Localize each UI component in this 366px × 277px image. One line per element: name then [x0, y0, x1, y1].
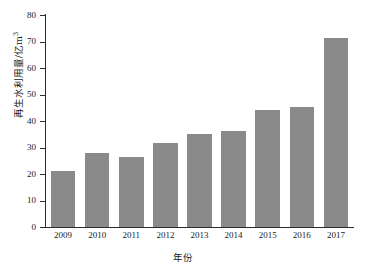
x-axis-tick-label: 2010	[80, 230, 114, 241]
bar	[255, 110, 280, 227]
y-axis-tick-label: 50	[8, 90, 36, 99]
x-axis-title: 年份	[0, 250, 366, 264]
x-axis-line	[45, 227, 354, 228]
bar	[119, 157, 144, 227]
bar	[290, 107, 315, 227]
y-axis-tick-label: 20	[8, 170, 36, 179]
bar-slot	[51, 15, 76, 227]
x-axis-tick-label: 2017	[319, 230, 353, 241]
bar	[153, 143, 178, 227]
y-axis-title-superscript: 3	[12, 32, 20, 36]
bar	[324, 38, 349, 227]
y-axis-tick-label: 30	[8, 143, 36, 152]
x-axis-tick-labels: 200920102011201220132014201520162017	[46, 230, 353, 244]
bar-slot	[119, 15, 144, 227]
bar-slot	[85, 15, 110, 227]
bar	[51, 171, 76, 227]
bar-slot	[153, 15, 178, 227]
x-axis-tick-label: 2011	[114, 230, 148, 241]
bar-slot	[324, 15, 349, 227]
bar-slot	[255, 15, 280, 227]
y-axis-title-text: 再生水利用量/亿m	[13, 36, 24, 118]
y-axis-tick-label: 70	[8, 37, 36, 46]
y-axis-tick-label: 0	[8, 223, 36, 232]
y-axis-tick-label: 40	[8, 117, 36, 126]
x-axis-tick-label: 2012	[148, 230, 182, 241]
x-axis-tick-label: 2013	[182, 230, 216, 241]
x-axis-tick-label: 2015	[251, 230, 285, 241]
bar-slot	[187, 15, 212, 227]
bar	[187, 134, 212, 227]
bar	[85, 153, 110, 227]
bar	[221, 131, 246, 227]
x-axis-tick-label: 2014	[217, 230, 251, 241]
bar-chart: 再生水利用量/亿m3 01020304050607080 20092010201…	[0, 0, 366, 277]
y-axis-tick-label: 80	[8, 11, 36, 20]
bar-slot	[221, 15, 246, 227]
y-axis-tick-label: 10	[8, 196, 36, 205]
y-axis-tick-label: 60	[8, 64, 36, 73]
bar-slot	[290, 15, 315, 227]
x-axis-tick-label: 2016	[285, 230, 319, 241]
x-axis-tick-label: 2009	[46, 230, 80, 241]
bars-container	[46, 15, 353, 227]
